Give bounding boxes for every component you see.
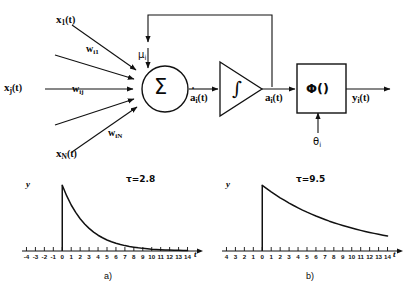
x-tick-label: 14 (182, 254, 194, 260)
plot-a-caption: a) (104, 272, 112, 281)
figure-root: x1(t) wi1 xj(t) wij xN(t) wiN μi Σ ai(t)… (0, 0, 409, 295)
plot-b (222, 185, 403, 253)
plot-b-ylabel: y (226, 180, 230, 189)
plot-b-xlabel: t (393, 250, 396, 259)
plot-a-ylabel: y (26, 180, 30, 189)
plot-b-caption: b) (306, 272, 314, 281)
plot-a-xlabel: t (194, 250, 197, 259)
plot-b-tau-label: τ=9.5 (296, 175, 325, 184)
plot-a (22, 185, 203, 253)
plot-a-tau-label: τ=2.8 (126, 175, 155, 184)
plots-vector-layer (0, 0, 409, 295)
x-tick-label: 14 (382, 254, 394, 260)
